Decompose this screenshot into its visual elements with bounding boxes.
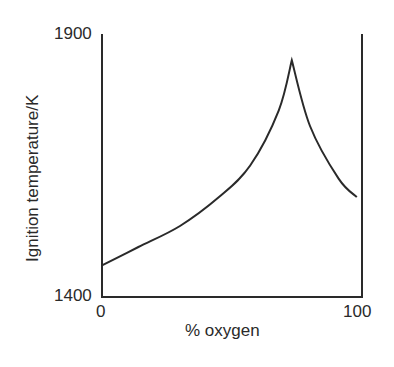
ignition-temperature-curve xyxy=(102,60,357,265)
x-tick-100: 100 xyxy=(343,302,371,322)
x-tick-0: 0 xyxy=(96,302,105,322)
x-axis-title: % oxygen xyxy=(185,321,260,341)
y-tick-1400: 1400 xyxy=(54,286,92,306)
chart-plot xyxy=(0,0,394,367)
y-axis-title: Ignition temperature/K xyxy=(23,95,43,262)
y-tick-1900: 1900 xyxy=(54,24,92,44)
